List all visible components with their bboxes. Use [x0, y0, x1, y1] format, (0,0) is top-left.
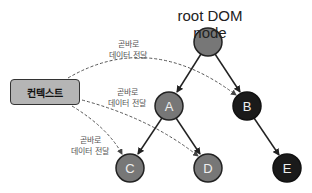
edge-label-to-d: 곧바로 데이터 전달 — [97, 87, 157, 109]
edge-label-line1: 곧바로 — [97, 87, 157, 98]
edge-label-line2: 데이터 전달 — [97, 98, 157, 109]
diagram-title: root DOM node — [160, 7, 260, 41]
node-label-d: D — [194, 154, 222, 182]
node-label-b: B — [233, 92, 261, 120]
edge-label-line1: 곧바로 — [98, 39, 158, 50]
edge-a-c — [138, 118, 162, 154]
node-label-a: A — [155, 92, 183, 120]
edge-label-line2: 데이터 전달 — [98, 50, 158, 61]
edge-b-e — [254, 118, 279, 155]
node-label-e: E — [273, 154, 301, 182]
edge-root-b — [215, 54, 240, 92]
edge-label-line2: 데이터 전달 — [60, 146, 120, 157]
context-label: 컨텍스트 — [27, 85, 63, 100]
node-label-c: C — [116, 154, 144, 182]
edge-root-a — [177, 54, 201, 92]
edge-label-line1: 곧바로 — [60, 135, 120, 146]
context-box: 컨텍스트 — [10, 79, 80, 105]
edge-label-to-c: 곧바로 데이터 전달 — [60, 135, 120, 157]
edge-label-to-b: 곧바로 데이터 전달 — [98, 39, 158, 61]
